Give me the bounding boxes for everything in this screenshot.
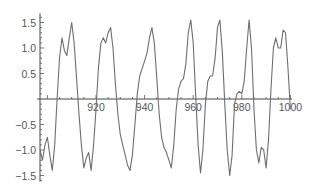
y-tick-label: 1.0 (21, 42, 36, 54)
x-tick-label: 960 (184, 101, 202, 113)
y-tick-label: 1.5 (21, 17, 36, 29)
y-tick-label: 0.5 (21, 68, 36, 80)
x-tick-label: 980 (233, 101, 251, 113)
y-tick-label: −1.5 (15, 170, 36, 182)
y-tick-label: −0.5 (15, 119, 36, 131)
y-tick-label: −1.0 (15, 144, 36, 156)
x-tick-label: 940 (136, 101, 154, 113)
chart-canvas: 92094096098010001.51.00.5−0.5−1.0−1.5 (0, 0, 318, 188)
line-chart: 92094096098010001.51.00.5−0.5−1.0−1.5 (0, 0, 318, 188)
data-series-line (40, 20, 290, 176)
